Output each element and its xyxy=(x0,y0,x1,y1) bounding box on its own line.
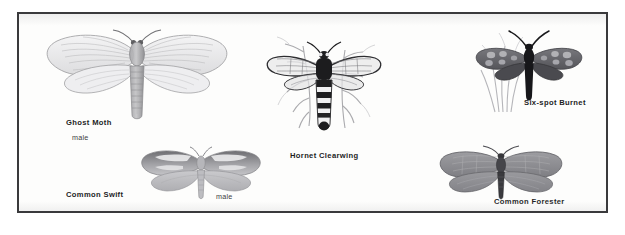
common-swift-illustration xyxy=(131,144,271,206)
sublabel-ghost-moth-sex: male xyxy=(72,133,88,142)
label-common-swift: Common Swift xyxy=(66,190,123,199)
label-six-spot-burnet: Six-spot Burnet xyxy=(524,98,586,107)
specimen-common-swift xyxy=(131,144,271,206)
illustration-plate: Ghost Moth male xyxy=(17,12,608,213)
label-hornet-clearwing: Hornet Clearwing xyxy=(290,151,358,160)
label-common-forester: Common Forester xyxy=(494,197,565,206)
specimen-hornet-clearwing xyxy=(259,28,389,143)
label-ghost-moth: Ghost Moth xyxy=(66,118,112,127)
hornet-clearwing-illustration xyxy=(259,28,389,143)
sublabel-common-swift-sex: male xyxy=(216,192,232,201)
specimen-ghost-moth xyxy=(35,22,235,127)
ghost-moth-illustration xyxy=(35,22,235,127)
